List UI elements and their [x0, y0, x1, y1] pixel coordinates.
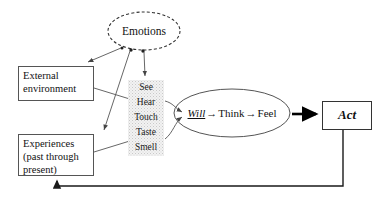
experiences-label-line1: Experiences [23, 138, 74, 149]
external-environment-label: External environment [23, 69, 91, 95]
senses-box: See Hear Touch Taste Smell [128, 80, 164, 156]
act-label: Act [323, 107, 371, 123]
emotions-label: Emotions [112, 25, 176, 37]
sense-item-smell: Smell [128, 142, 164, 152]
connector-emotions-to-senses [144, 52, 145, 76]
connector-act-feedback-to-experiences [57, 130, 343, 186]
process-arrow-2-icon: → [245, 107, 258, 119]
experiences-label-line3: present) [23, 164, 57, 175]
sense-item-taste: Taste [128, 127, 164, 137]
sense-item-touch: Touch [128, 112, 164, 122]
process-arrow-1-icon: → [205, 107, 218, 119]
external-environment-label-line2: environment [23, 83, 76, 94]
connector-emotions-to-experiences [104, 51, 130, 130]
process-step-think: Think [218, 107, 244, 119]
act-box[interactable]: Act [322, 101, 372, 130]
experiences-label-line2: (past through [23, 151, 79, 162]
funnel-brace-lower [165, 117, 182, 139]
external-environment-box[interactable]: External environment [18, 66, 94, 101]
sense-item-hear: Hear [128, 97, 164, 107]
experiences-label: Experiences (past through present) [23, 137, 91, 176]
process-chain: Will → Think → Feel [186, 104, 278, 122]
sense-item-see: See [128, 82, 164, 92]
external-environment-label-line1: External [23, 70, 59, 81]
experiences-box[interactable]: Experiences (past through present) [18, 134, 94, 176]
process-step-will: Will [188, 107, 206, 119]
connector-emotions-to-external [88, 48, 121, 62]
diagram-canvas: Emotions External environment Experience… [0, 0, 387, 207]
process-step-feel: Feel [258, 107, 277, 119]
